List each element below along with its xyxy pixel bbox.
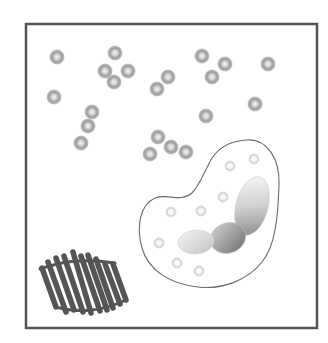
granule-1 bbox=[50, 50, 64, 64]
granule-18 bbox=[151, 130, 165, 144]
granule-13 bbox=[261, 57, 275, 71]
cell-diagram bbox=[0, 0, 328, 343]
granule-8 bbox=[81, 119, 95, 133]
vesicle-4 bbox=[166, 207, 176, 217]
granule-2 bbox=[108, 46, 122, 60]
granule-15 bbox=[150, 82, 164, 96]
granule-20 bbox=[179, 145, 193, 159]
granule-3 bbox=[98, 64, 112, 78]
granule-11 bbox=[218, 57, 232, 71]
granule-19 bbox=[164, 140, 178, 154]
granule-17 bbox=[199, 109, 213, 123]
vesicle-8 bbox=[194, 266, 204, 276]
granule-14 bbox=[161, 70, 175, 84]
vesicle-5 bbox=[196, 206, 206, 216]
vesicle-2 bbox=[249, 154, 259, 164]
vesicle-6 bbox=[154, 238, 164, 248]
granule-10 bbox=[195, 49, 209, 63]
vesicle-7 bbox=[172, 258, 182, 268]
vesicle-3 bbox=[218, 192, 228, 202]
granule-21 bbox=[143, 147, 157, 161]
granule-12 bbox=[205, 70, 219, 84]
vesicle-1 bbox=[225, 161, 235, 171]
granule-5 bbox=[107, 75, 121, 89]
granule-4 bbox=[121, 64, 135, 78]
granule-7 bbox=[85, 105, 99, 119]
granule-9 bbox=[74, 136, 88, 150]
granule-6 bbox=[47, 90, 61, 104]
granule-16 bbox=[248, 97, 262, 111]
